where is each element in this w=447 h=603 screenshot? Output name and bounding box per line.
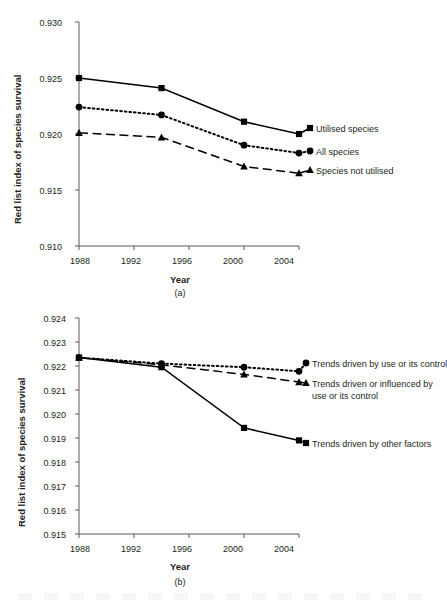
series-2	[75, 129, 314, 176]
series-0	[76, 354, 310, 374]
legend-marker-1	[307, 148, 314, 155]
chart-panel-b: Red list index of species survival 0.924…	[0, 297, 444, 603]
chart-panel-a: Red list index of species survival 0.930…	[0, 0, 444, 300]
legend-marker-0	[307, 125, 313, 131]
series-2-point-1	[158, 133, 166, 140]
chart-b-canvas	[0, 297, 444, 603]
series-1	[76, 104, 314, 157]
series-line-2	[79, 358, 299, 441]
series-2-point-2	[241, 425, 247, 431]
page-footer-artifact	[18, 593, 428, 600]
series-line-2	[79, 133, 299, 173]
legend-marker-0	[303, 360, 310, 367]
series-0-point-0	[76, 75, 82, 81]
legend-marker-2	[306, 166, 314, 173]
series-0-point-1	[158, 85, 164, 91]
legend-marker-2	[303, 440, 309, 446]
series-line-1	[79, 107, 299, 153]
series-1-point-2	[241, 142, 248, 149]
series-0-point-2	[241, 364, 248, 371]
series-2-point-1	[158, 364, 164, 370]
series-0-point-2	[241, 119, 247, 125]
series-0	[76, 75, 313, 137]
series-1-point-0	[76, 104, 83, 111]
series-1-point-1	[158, 112, 165, 119]
chart-a-canvas	[0, 0, 444, 300]
series-1	[75, 354, 310, 386]
series-2-point-0	[76, 355, 82, 361]
series-line-0	[79, 358, 299, 372]
